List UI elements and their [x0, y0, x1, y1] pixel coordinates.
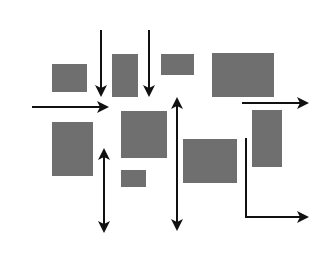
diagram-canvas: [0, 0, 322, 255]
arrow-elbow-icon: [246, 138, 307, 217]
arrows-layer: [0, 0, 322, 255]
